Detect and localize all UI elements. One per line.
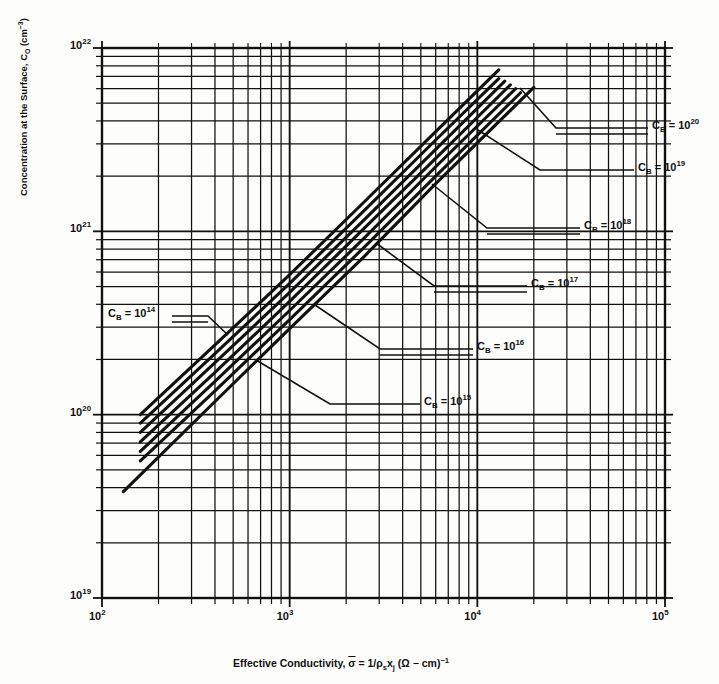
y-axis-title-text: Concentration at the Surface, CO (cm−3) [18, 18, 29, 196]
x-tick-label: 102 [89, 610, 106, 622]
y-tick-label: 1019 [70, 589, 91, 601]
curve-label-cb-20: CB = 1020 [652, 119, 699, 131]
curve-label-cb-15: CB = 1015 [424, 395, 471, 407]
y-tick-label: 1021 [70, 222, 91, 234]
curve-label-cb-14: CB = 1014 [108, 307, 155, 319]
curve-label-cb-16: CB = 1016 [477, 340, 524, 352]
curve-label-cb-18: CB = 1018 [584, 219, 631, 231]
irvins-curves-chart [0, 0, 719, 684]
y-tick-label: 1020 [70, 406, 91, 418]
x-tick-label: 105 [652, 610, 669, 622]
y-axis-title: Concentration at the Surface, CO (cm−3) [18, 180, 29, 196]
x-tick-label: 104 [464, 610, 481, 622]
curve-label-cb-19: CB = 1019 [638, 161, 685, 173]
y-tick-label: 1022 [70, 39, 91, 51]
x-axis-title: Effective Conductivity, σ = 1/ρsxj (Ω − … [233, 657, 449, 669]
x-tick-label: 103 [277, 610, 294, 622]
curve-label-cb-17: CB = 1017 [531, 277, 578, 289]
